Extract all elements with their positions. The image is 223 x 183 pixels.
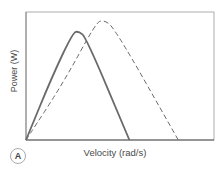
- panel-label: A: [10, 148, 26, 164]
- x-axis-label: Velocity (rad/s): [60, 147, 170, 158]
- solid-curve: [26, 32, 129, 140]
- y-axis-label: Power (W): [9, 41, 19, 101]
- plot-frame: [26, 12, 214, 140]
- dashed-curve: [26, 21, 178, 140]
